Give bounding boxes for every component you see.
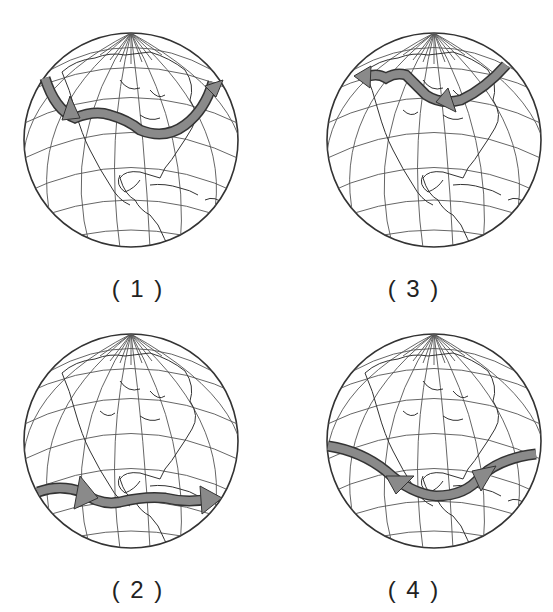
globe-1 — [0, 0, 276, 306]
panel-label-4: ( 4 ) — [276, 576, 552, 604]
panel-label-3: ( 3 ) — [276, 275, 552, 303]
panel-3: ( 3 ) — [276, 0, 552, 306]
globe-3 — [276, 0, 552, 306]
globe-2 — [0, 306, 276, 612]
panel-4: ( 4 ) — [276, 306, 552, 612]
panel-label-1: ( 1 ) — [0, 275, 276, 303]
panel-label-2: ( 2 ) — [0, 576, 276, 604]
globe-4 — [276, 306, 552, 612]
panel-1: ( 1 ) — [0, 0, 276, 306]
panel-2: ( 2 ) — [0, 306, 276, 612]
